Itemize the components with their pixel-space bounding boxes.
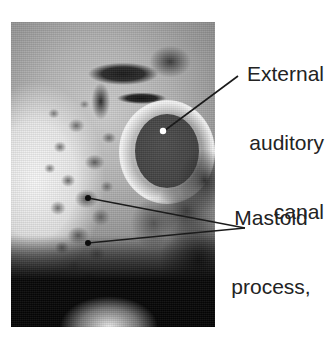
label-line: External bbox=[214, 62, 324, 85]
temporal-bone-photo bbox=[11, 22, 215, 327]
label-line: Mastoid bbox=[214, 206, 328, 229]
photo-grain-texture bbox=[11, 22, 215, 327]
label-line: auditory bbox=[214, 131, 324, 154]
anatomy-figure: External auditory canal Mastoid process,… bbox=[0, 0, 333, 338]
label-line: process, bbox=[214, 275, 328, 298]
label-mastoid-process: Mastoid process, cut to show mastoid air… bbox=[214, 160, 328, 338]
